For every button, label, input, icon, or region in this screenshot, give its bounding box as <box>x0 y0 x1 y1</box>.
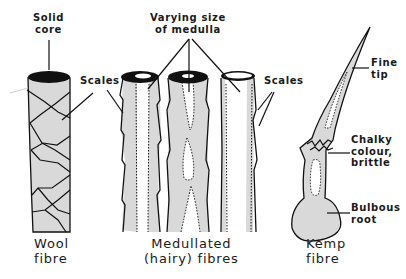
label-bulbous-root: Bulbous root <box>351 202 400 225</box>
label-line: Scales <box>264 75 304 86</box>
label-solid-core: Solid core <box>33 12 64 35</box>
label-line: Bulbous <box>351 202 400 214</box>
label-line: colour, <box>351 146 393 158</box>
name-line: Kemp <box>306 237 346 252</box>
label-line: tip <box>371 69 398 81</box>
label-line: of medulla <box>150 24 226 36</box>
label-chalky-colour: Chalky colour, brittle <box>351 134 393 169</box>
label-line: root <box>351 214 400 226</box>
label-line: core <box>33 24 64 36</box>
label-varying-medulla: Varying size of medulla <box>150 12 226 35</box>
label-scales-wool: Scales <box>80 75 120 87</box>
medullated-fibre-3-drawing <box>221 71 257 232</box>
label-fine-tip: Fine tip <box>371 57 398 80</box>
medullated-fibre-1-drawing <box>120 71 161 232</box>
name-medullated-fibres: Medullated (hairy) fibres <box>144 237 239 267</box>
label-line: brittle <box>351 157 393 169</box>
name-line: Medullated <box>144 237 239 252</box>
label-line: Fine <box>371 57 398 69</box>
wool-fibre-drawing <box>10 40 93 232</box>
name-line: fibre <box>306 252 346 267</box>
name-wool-fibre: Wool fibre <box>34 237 69 267</box>
label-scales-medullated: Scales <box>264 75 304 87</box>
name-line: (hairy) fibres <box>144 252 239 267</box>
label-line: Varying size <box>150 12 226 24</box>
name-line: fibre <box>34 252 69 267</box>
medullated-fibre-2-drawing <box>167 71 209 233</box>
label-line: Solid <box>33 12 64 24</box>
label-line: Chalky <box>351 134 393 146</box>
name-kemp-fibre: Kemp fibre <box>306 237 346 267</box>
name-line: Wool <box>34 237 69 252</box>
fibre-diagram: Solid core Scales Varying size of medull… <box>0 0 406 279</box>
label-line: Scales <box>80 75 120 86</box>
